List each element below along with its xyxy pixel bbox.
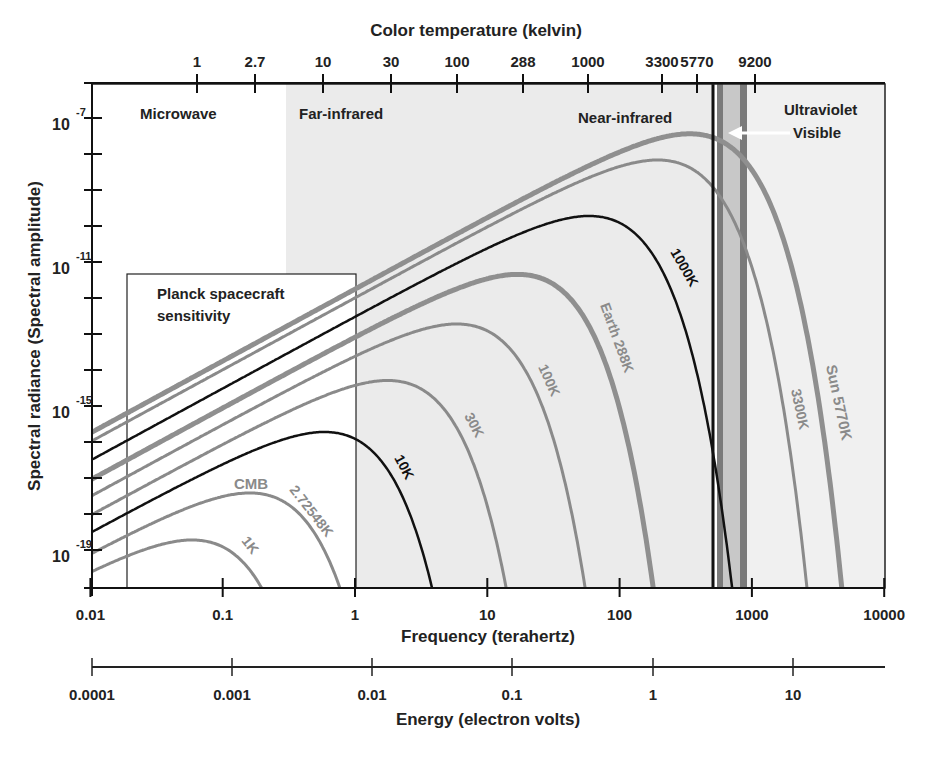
- energy-tick-label: 0.01: [357, 686, 386, 703]
- top-tick-label: 1: [193, 53, 201, 70]
- energy-tick-label: 10: [785, 686, 802, 703]
- label-ultraviolet: Ultraviolet: [784, 101, 857, 118]
- x-tick-label: 1: [351, 606, 359, 623]
- y-tick-exponent: -19: [76, 538, 92, 550]
- x-tick-label: 0.1: [212, 606, 233, 623]
- top-tick-label: 30: [383, 53, 400, 70]
- x-axis-tick-labels: 0.010.1110100100010000: [76, 606, 905, 623]
- x-tick-label: 1000: [735, 606, 768, 623]
- x-tick-label: 100: [607, 606, 632, 623]
- label-visible: Visible: [793, 124, 841, 141]
- energy-tick-label: 0.1: [502, 686, 523, 703]
- y-axis-label: Spectral radiance (Spectral amplitude): [25, 181, 44, 491]
- energy-tick-label: 0.001: [213, 686, 251, 703]
- label-cmb: CMB: [234, 475, 268, 492]
- x-tick-label: 0.01: [76, 606, 105, 623]
- label-far-infrared: Far-infrared: [299, 105, 383, 122]
- energy-axis-ticks: 0.00010.0010.010.1110: [69, 658, 801, 703]
- top-tick-label: 100: [444, 53, 469, 70]
- y-tick-label: 10: [52, 404, 70, 421]
- blackbody-spectrum-chart: 10-710-1110-1510-19 Spectral radiance (S…: [0, 0, 938, 761]
- top-tick-label: 9200: [738, 53, 771, 70]
- y-tick-label: 10: [52, 116, 70, 133]
- x-axis-label: Frequency (terahertz): [401, 627, 575, 646]
- y-tick-exponent: -11: [76, 250, 91, 262]
- x-tick-label: 10: [479, 606, 496, 623]
- top-tick-label: 5770: [680, 53, 713, 70]
- planck-label-line2: sensitivity: [157, 307, 231, 324]
- label-microwave: Microwave: [140, 105, 217, 122]
- y-tick-exponent: -7: [76, 106, 86, 118]
- energy-axis-label: Energy (electron volts): [396, 710, 580, 729]
- x-tick-label: 10000: [863, 606, 905, 623]
- y-tick-exponent: -15: [76, 394, 92, 406]
- top-axis-label: Color temperature (kelvin): [370, 21, 582, 40]
- top-tick-label: 1000: [571, 53, 604, 70]
- region-ultraviolet: [747, 84, 885, 588]
- y-tick-label: 10: [52, 548, 70, 565]
- top-tick-label: 288: [510, 53, 535, 70]
- top-tick-label: 10: [315, 53, 332, 70]
- label-near-infrared: Near-infrared: [578, 109, 672, 126]
- top-tick-label: 2.7: [245, 53, 266, 70]
- y-axis-tick-labels: 10-710-1110-1510-19: [52, 106, 92, 565]
- y-tick-label: 10: [52, 260, 70, 277]
- top-tick-label: 3300: [645, 53, 678, 70]
- energy-tick-label: 0.0001: [69, 686, 115, 703]
- planck-label-line1: Planck spacecraft: [157, 285, 285, 302]
- energy-tick-label: 1: [649, 686, 657, 703]
